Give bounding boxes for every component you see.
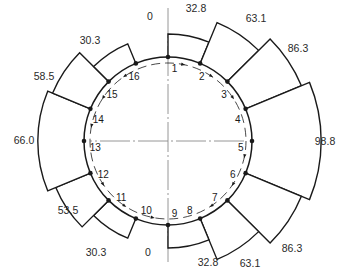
station-number: 8 [187, 205, 193, 216]
value-label: 63.1 [246, 12, 267, 24]
station-number: 15 [106, 89, 118, 100]
station-number: 13 [90, 142, 102, 153]
station-number: 12 [98, 169, 110, 180]
station-dot [134, 61, 139, 66]
station-dot [88, 171, 93, 176]
station-number: 3 [221, 89, 227, 100]
polar-block-diagram: 12345678910111213141516 32.863.186.398.8… [0, 0, 358, 269]
value-label: 58.5 [34, 70, 55, 82]
station-dot [225, 79, 230, 84]
station-number: 9 [172, 208, 178, 219]
value-label: 66.0 [14, 134, 35, 146]
flow-arrow-icon [122, 203, 126, 207]
flow-arrow-icon [210, 203, 214, 207]
flow-arrow-icon [230, 95, 234, 99]
value-label: 53.5 [58, 204, 79, 216]
flow-arrow-icon [209, 74, 213, 78]
pressure-distribution-diagram: 12345678910111213141516 32.863.186.398.8… [0, 0, 358, 269]
value-label: 0 [147, 10, 153, 22]
station-dot [166, 55, 171, 60]
station-dot [243, 171, 248, 176]
station-dot [88, 107, 93, 112]
station-dot [198, 61, 203, 66]
station-dot [134, 216, 139, 221]
station-number: 7 [212, 192, 218, 203]
station-dot [243, 107, 248, 112]
flow-arrow-icon [181, 63, 185, 66]
station-number: 10 [141, 205, 153, 216]
flow-arrow-icon [232, 182, 236, 186]
station-number: 6 [230, 169, 236, 180]
value-label: 63.1 [240, 257, 261, 269]
station-number: 1 [172, 63, 178, 74]
station-dot [82, 139, 87, 144]
station-number: 4 [235, 114, 241, 125]
flow-arrow-icon [123, 74, 127, 78]
value-label: 30.3 [86, 246, 107, 258]
station-dot [106, 79, 111, 84]
station-number: 16 [129, 71, 141, 82]
value-label: 0 [145, 246, 151, 258]
station-number: 11 [116, 192, 127, 203]
station-dot [225, 198, 230, 203]
value-label: 98.8 [315, 135, 336, 147]
value-label: 32.8 [198, 256, 219, 268]
flow-arrow-icon [101, 182, 105, 186]
station-number: 2 [199, 71, 205, 82]
flow-arrow-icon [102, 95, 106, 99]
station-dot [106, 198, 111, 203]
value-label: 32.8 [186, 2, 207, 14]
value-label: 30.3 [80, 34, 101, 46]
station-dot [166, 223, 171, 228]
value-label: 86.3 [288, 42, 309, 54]
value-label: 86.3 [282, 242, 303, 254]
station-number: 14 [93, 114, 105, 125]
station-dot [250, 139, 255, 144]
station-dot [198, 216, 203, 221]
station-number: 5 [238, 142, 244, 153]
